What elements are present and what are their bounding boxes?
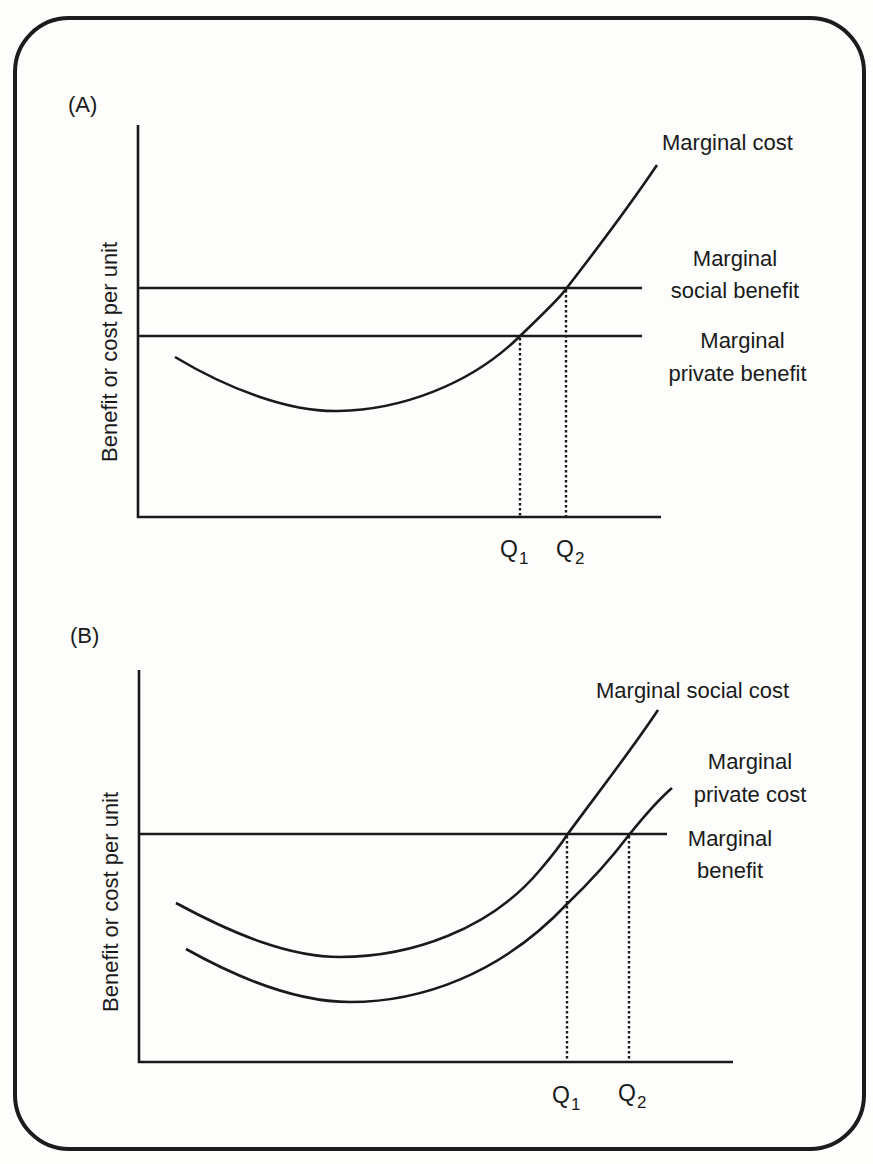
panel-b-mb-label-line2: benefit [670, 858, 790, 884]
panel-a-msb-label-line1: Marginal [660, 246, 810, 272]
panel-a-mpb-label-line2: private benefit [655, 361, 820, 387]
panel-a-marginal-cost-label: Marginal cost [662, 130, 793, 156]
panel-b-mb-label-line1: Marginal [670, 826, 790, 852]
panel-a-q1-label: Q1 [500, 536, 528, 569]
panel-b-marginal-social-cost-label: Marginal social cost [596, 678, 789, 704]
panel-a-mpb-label-line1: Marginal [660, 328, 825, 354]
panel-a-tag: (A) [68, 92, 97, 118]
panel-b-tag: (B) [70, 623, 99, 649]
diagram-canvas [0, 0, 873, 1164]
panel-b-mpc-label-line1: Marginal [680, 749, 820, 775]
panel-b-q1-label: Q1 [552, 1082, 580, 1115]
panel-a-msb-label-line2: social benefit [660, 278, 810, 304]
panel-b-y-axis-label: Benefit or cost per unit [98, 792, 124, 1012]
panel-a-y-axis-label: Benefit or cost per unit [97, 242, 123, 462]
panel-a-q2-label: Q2 [556, 536, 584, 569]
panel-b-q2-label: Q2 [618, 1080, 646, 1113]
panel-b-mpc-label-line2: private cost [680, 782, 820, 808]
panel-b-marginal-private-cost-curve [186, 788, 672, 1002]
